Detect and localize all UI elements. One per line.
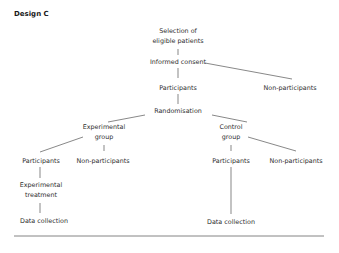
node-control-group: Control group (219, 122, 242, 142)
node-selection-line2: eligible patients (152, 36, 203, 46)
connector (248, 137, 296, 151)
connector (212, 115, 247, 122)
node-experimental-group-line1: Experimental (83, 122, 126, 132)
node-ctrl-non-participants: Non-participants (269, 156, 322, 166)
node-non-participants-top: Non-participants (263, 83, 316, 93)
node-selection: Selection of eligible patients (152, 26, 203, 46)
node-experimental-treatment-line2: treatment (20, 190, 63, 200)
node-exp-data-collection: Data collection (20, 216, 68, 226)
node-experimental-treatment: Experimental treatment (20, 180, 63, 200)
node-ctrl-participants: Participants (212, 156, 250, 166)
node-participants-top: Participants (159, 83, 197, 93)
connector (40, 137, 83, 152)
node-experimental-group: Experimental group (83, 122, 126, 142)
node-selection-line1: Selection of (152, 26, 203, 36)
connector (108, 115, 145, 122)
node-experimental-treatment-line1: Experimental (20, 180, 63, 190)
node-informed-consent: Informed consent (150, 57, 206, 67)
node-randomisation: Randomisation (154, 106, 202, 116)
node-experimental-group-line2: group (83, 132, 126, 142)
node-exp-non-participants: Non-participants (76, 156, 129, 166)
node-exp-participants: Participants (22, 156, 60, 166)
node-ctrl-data-collection: Data collection (207, 217, 255, 227)
connector (205, 63, 292, 79)
node-control-group-line1: Control (219, 122, 242, 132)
node-control-group-line2: group (219, 132, 242, 142)
